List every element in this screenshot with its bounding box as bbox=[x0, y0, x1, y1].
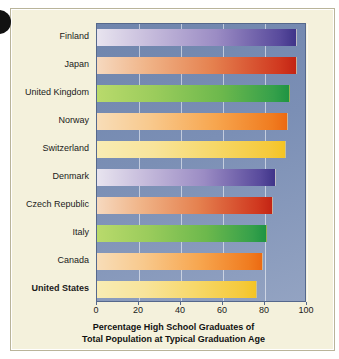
chart-caption: Percentage High School Graduates of Tota… bbox=[29, 321, 318, 345]
category-label: Japan bbox=[64, 56, 89, 73]
x-tick-label: 60 bbox=[217, 305, 227, 315]
figure-root: FinlandJapanUnited KingdomNorwaySwitzerl… bbox=[0, 0, 339, 359]
bar-row bbox=[97, 57, 307, 74]
bar bbox=[97, 141, 286, 158]
bar-row bbox=[97, 281, 307, 298]
bar-row bbox=[97, 85, 307, 102]
bar bbox=[97, 197, 273, 214]
bar-row bbox=[97, 113, 307, 130]
bar-row bbox=[97, 169, 307, 186]
caption-line-1: Percentage High School Graduates of bbox=[29, 321, 318, 333]
bar-row bbox=[97, 29, 307, 46]
value-axis: 020406080100 bbox=[96, 302, 306, 318]
category-label: Italy bbox=[72, 224, 89, 241]
bar bbox=[97, 281, 257, 298]
category-label: Denmark bbox=[52, 168, 89, 185]
x-tick-label: 80 bbox=[259, 305, 269, 315]
figure-card: FinlandJapanUnited KingdomNorwaySwitzerl… bbox=[10, 8, 335, 351]
x-tick-label: 20 bbox=[133, 305, 143, 315]
category-label: Canada bbox=[57, 252, 89, 269]
bar-row bbox=[97, 253, 307, 270]
x-tick-label: 100 bbox=[298, 305, 313, 315]
caption-line-2: Total Population at Typical Graduation A… bbox=[29, 333, 318, 345]
category-label: Czech Republic bbox=[26, 196, 89, 213]
bar bbox=[97, 113, 288, 130]
bar bbox=[97, 57, 297, 74]
category-label: Switzerland bbox=[42, 140, 89, 157]
bar bbox=[97, 169, 276, 186]
x-tick-label: 40 bbox=[175, 305, 185, 315]
category-label: United States bbox=[31, 280, 89, 297]
bar bbox=[97, 85, 290, 102]
bar-row bbox=[97, 141, 307, 158]
bar bbox=[97, 253, 263, 270]
bar bbox=[97, 29, 297, 46]
category-label: Norway bbox=[58, 112, 89, 129]
bar bbox=[97, 225, 267, 242]
category-label: Finland bbox=[59, 28, 89, 45]
plot-area bbox=[96, 23, 306, 302]
x-tick-label: 0 bbox=[93, 305, 98, 315]
bar-row bbox=[97, 225, 307, 242]
bar-row bbox=[97, 197, 307, 214]
gridline bbox=[307, 24, 308, 301]
category-label: United Kingdom bbox=[25, 84, 89, 101]
category-axis-labels: FinlandJapanUnited KingdomNorwaySwitzerl… bbox=[11, 23, 93, 302]
